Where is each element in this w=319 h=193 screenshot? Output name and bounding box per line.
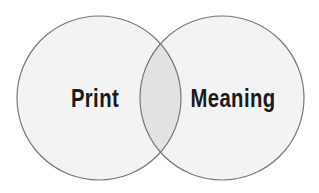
- set-label-print: Print: [66, 85, 124, 111]
- set-label-meaning: Meaning: [189, 85, 276, 111]
